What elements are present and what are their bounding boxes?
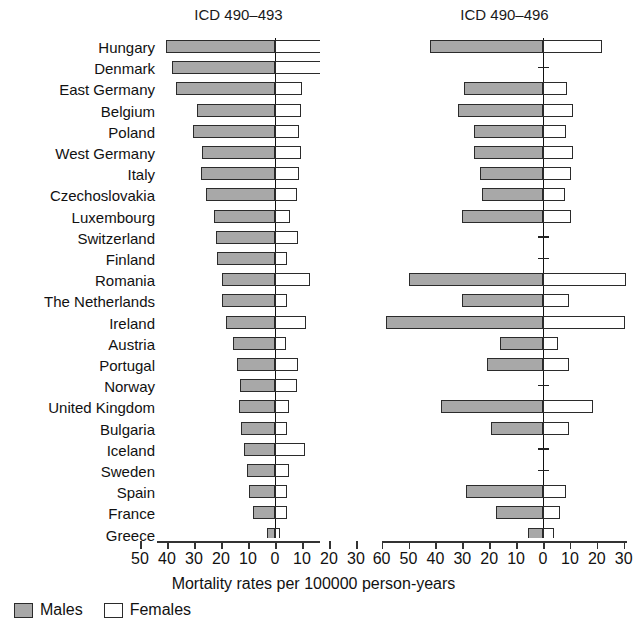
no-data-marker [538,448,549,450]
bar-female [275,125,299,138]
axis-tick [221,541,223,549]
panel-left-plot [157,38,320,538]
bar-male [222,273,275,286]
axis-tick-label: 10 [561,550,579,568]
bar-female [543,400,593,413]
category-label: Poland [108,124,155,141]
category-label: Portugal [99,357,155,374]
axis-tick-label: 10 [293,550,311,568]
bar-male [464,82,543,95]
bar-female [275,485,287,498]
no-data-marker [538,385,549,387]
bar-female [275,337,286,350]
bar-male [487,358,543,371]
bar-male [474,146,543,159]
bar-male [172,61,275,74]
axis-tick [382,541,384,549]
bar-male [222,294,275,307]
axis-tick-label: 10 [507,550,525,568]
category-label: Romania [95,272,155,289]
legend-label-females: Females [130,601,191,619]
axis-tick [597,541,599,549]
category-label: Ireland [109,315,155,332]
bar-male [202,146,275,159]
axis-tick-label: 20 [588,550,606,568]
category-label: Norway [104,378,155,395]
legend-swatch-females-icon [104,603,123,618]
no-data-marker [538,258,549,260]
legend-item-males: Males [14,601,83,619]
no-data-marker [538,67,549,69]
bar-female [543,273,626,286]
bar-female [543,146,573,159]
axis-tick [409,541,411,549]
bar-male [216,231,275,244]
bar-male [466,485,543,498]
axis-tick-label: 30 [347,550,365,568]
bar-male [474,125,543,138]
bar-female [543,104,573,117]
bar-female [275,252,287,265]
bar-female [275,379,297,392]
axis-tick-label: 50 [400,550,418,568]
legend-item-females: Females [104,601,191,619]
category-label: Spain [117,484,155,501]
bar-female [543,316,625,329]
bar-male [496,506,543,519]
bar-female [543,125,566,138]
bar-female [275,188,297,201]
axis-tick-label: 20 [320,550,338,568]
category-label: Czechoslovakia [50,187,155,204]
category-axis-labels: HungaryDenmarkEast GermanyBelgiumPolandW… [0,38,155,538]
category-label: Italy [127,166,155,183]
category-label: Belgium [101,103,155,120]
bar-male [240,379,275,392]
panel-right-title: ICD 490–496 [382,6,627,23]
axis-tick [543,541,545,549]
bar-female [543,167,571,180]
bar-male [480,167,543,180]
bar-male [482,188,543,201]
axis-tick [624,541,626,549]
axis-tick [167,541,169,549]
bar-female [275,358,298,371]
category-label: Finland [106,251,155,268]
bar-male [500,337,543,350]
bar-female [275,464,289,477]
axis-tick [275,541,277,549]
bar-female [275,146,301,159]
bar-male [233,337,275,350]
axis-tick [570,541,572,549]
bar-female [543,188,565,201]
category-label: Denmark [94,60,155,77]
axis-tick-label: 0 [539,550,548,568]
bar-male [206,188,275,201]
bar-female [275,82,302,95]
category-label: The Netherlands [44,293,155,310]
axis-tick-label: 40 [426,550,444,568]
category-label: Greece [106,527,155,544]
bar-female [543,528,554,538]
bar-female [543,485,566,498]
axis-tick-label: 0 [271,550,280,568]
legend-label-males: Males [40,601,83,619]
bar-female [275,506,287,519]
axis-line-right [382,541,627,543]
category-label: France [108,505,155,522]
bar-female [543,358,569,371]
bar-female [275,210,290,223]
bar-male [176,82,275,95]
bar-female [543,82,567,95]
bar-male [226,316,275,329]
axis-tick [194,541,196,549]
bar-female [275,294,287,307]
bar-male [458,104,543,117]
bar-male [201,167,275,180]
bar-male [244,443,275,456]
bar-male [241,422,275,435]
bar-male [217,252,275,265]
axis-tick-label: 60 [373,550,391,568]
no-data-marker [538,236,549,238]
bar-female [275,231,298,244]
